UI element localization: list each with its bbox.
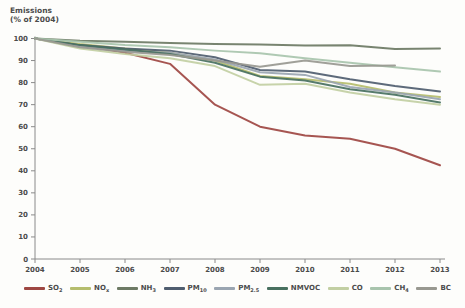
legend-label-PM10: PM10 bbox=[188, 284, 207, 292]
x-tick-label: 2005 bbox=[70, 266, 90, 274]
legend-swatch-CH4 bbox=[370, 287, 391, 290]
x-tick-label: 2007 bbox=[160, 266, 180, 274]
legend-swatch-NOx bbox=[70, 287, 91, 290]
x-tick-label: 2013 bbox=[430, 266, 450, 274]
series-line-SO2 bbox=[35, 39, 440, 166]
y-tick-label: 10 bbox=[18, 233, 28, 241]
legend-item-CO: CO bbox=[328, 284, 363, 292]
x-tick-label: 2010 bbox=[295, 266, 315, 274]
x-tick-label: 2011 bbox=[340, 266, 360, 274]
x-tick-label: 2012 bbox=[385, 266, 405, 274]
x-tick-label: 2008 bbox=[205, 266, 225, 274]
legend-label-BC: BC bbox=[440, 284, 450, 292]
legend-item-PM2.5: PM2.5 bbox=[214, 284, 259, 292]
legend-label-NOx: NOx bbox=[94, 284, 109, 292]
y-tick-label: 60 bbox=[18, 123, 28, 131]
y-tick-label: 100 bbox=[13, 35, 28, 43]
legend-item-CH4: CH4 bbox=[370, 284, 408, 292]
x-tick-label: 2006 bbox=[115, 266, 135, 274]
y-tick-label: 80 bbox=[18, 79, 28, 87]
legend-item-NMVOC: NMVOC bbox=[267, 284, 320, 292]
y-tick-label: 20 bbox=[18, 211, 28, 219]
y-tick-label: 30 bbox=[18, 189, 28, 197]
legend-label-PM2.5: PM2.5 bbox=[238, 284, 259, 292]
legend-swatch-CO bbox=[328, 287, 349, 290]
y-tick-label: 70 bbox=[18, 101, 28, 109]
y-tick-label: 40 bbox=[18, 167, 28, 175]
x-tick-label: 2009 bbox=[250, 266, 270, 274]
legend-label-CH4: CH4 bbox=[394, 284, 408, 292]
y-tick-label: 90 bbox=[18, 57, 28, 65]
legend-swatch-NMVOC bbox=[267, 287, 288, 290]
legend-swatch-PM10 bbox=[164, 287, 185, 290]
legend-item-NOx: NOx bbox=[70, 284, 109, 292]
legend-swatch-BC bbox=[416, 287, 437, 290]
y-tick-label: 0 bbox=[23, 256, 28, 264]
y-tick-label: 50 bbox=[18, 145, 28, 153]
legend: SO2NOxNH3PM10PM2.5NMVOCCOCH4BC bbox=[24, 284, 451, 292]
legend-label-CO: CO bbox=[352, 284, 363, 292]
legend-swatch-PM2.5 bbox=[214, 287, 235, 290]
legend-item-SO2: SO2 bbox=[24, 284, 62, 292]
legend-swatch-NH3 bbox=[117, 287, 138, 290]
legend-label-NMVOC: NMVOC bbox=[291, 284, 320, 292]
legend-swatch-SO2 bbox=[24, 287, 45, 290]
legend-label-NH3: NH3 bbox=[141, 284, 156, 292]
emissions-line-chart: Emissions (% of 2004) 010203040506070809… bbox=[0, 0, 465, 308]
x-tick-label: 2004 bbox=[25, 266, 45, 274]
legend-label-SO2: SO2 bbox=[48, 284, 62, 292]
plot-area: 0102030405060708090100200420052006200720… bbox=[0, 0, 465, 308]
legend-item-PM10: PM10 bbox=[164, 284, 207, 292]
legend-item-BC: BC bbox=[416, 284, 450, 292]
legend-item-NH3: NH3 bbox=[117, 284, 156, 292]
